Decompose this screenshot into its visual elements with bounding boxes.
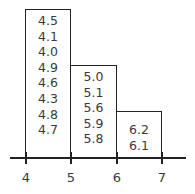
- tick-4: [25, 152, 27, 164]
- tick-5: [70, 152, 72, 164]
- value: 5.0: [71, 69, 116, 85]
- value: 5.1: [71, 85, 116, 101]
- tick-6: [116, 152, 118, 164]
- value: 5.8: [71, 131, 116, 147]
- value: 5.6: [71, 100, 116, 116]
- bin-5-6: 5.0 5.1 5.6 5.9 5.8: [70, 65, 117, 159]
- bin-6-7-values: 6.2 6.1: [117, 122, 161, 153]
- tick-label-6: 6: [107, 170, 127, 185]
- value: 6.2: [117, 122, 161, 138]
- value: 4.5: [26, 13, 70, 29]
- tick-label-7: 7: [152, 170, 172, 185]
- tick-7: [161, 152, 163, 164]
- value: 4.0: [26, 44, 70, 60]
- bin-5-6-values: 5.0 5.1 5.6 5.9 5.8: [71, 69, 116, 147]
- bin-6-7: 6.2 6.1: [116, 111, 162, 159]
- value: 4.3: [26, 91, 70, 107]
- value: 4.1: [26, 29, 70, 45]
- value: 5.9: [71, 116, 116, 132]
- value: 4.7: [26, 122, 70, 138]
- tick-label-5: 5: [61, 170, 81, 185]
- value: 4.6: [26, 75, 70, 91]
- value: 4.9: [26, 60, 70, 76]
- x-axis: [10, 157, 186, 159]
- tick-label-4: 4: [16, 170, 36, 185]
- value: 6.1: [117, 138, 161, 154]
- bin-4-5-values: 4.5 4.1 4.0 4.9 4.6 4.3 4.8 4.7: [26, 13, 70, 138]
- bin-4-5: 4.5 4.1 4.0 4.9 4.6 4.3 4.8 4.7: [25, 9, 71, 159]
- value: 4.8: [26, 107, 70, 123]
